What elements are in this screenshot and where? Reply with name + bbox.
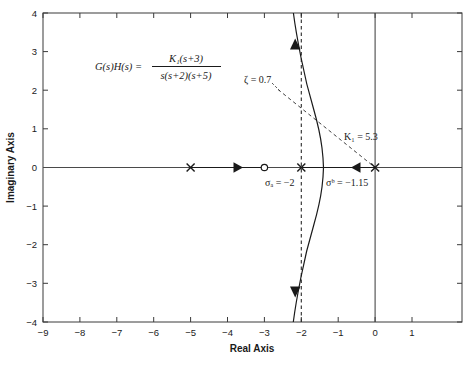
y-axis-title: Imaginary Axis bbox=[5, 132, 16, 203]
y-tick-label: −1 bbox=[26, 201, 37, 212]
x-tick-label: −8 bbox=[74, 327, 85, 338]
y-tick-label: −2 bbox=[26, 239, 37, 250]
y-tick-label: 0 bbox=[32, 162, 37, 173]
y-tick-label: 4 bbox=[32, 8, 37, 19]
root-locus-figure: −9 −8 −7 −6 −5 −4 −3 −2 −1 0 1 −4 −3 −2 … bbox=[0, 0, 474, 369]
equation-denominator: s(s+2)(s+5) bbox=[161, 70, 212, 82]
sigma-b-label: σᵇ = −1.15 bbox=[326, 177, 368, 188]
gain-label: K₁ = 5.3 bbox=[344, 131, 378, 142]
x-axis-title: Real Axis bbox=[230, 343, 275, 354]
x-tick-label: −4 bbox=[222, 327, 233, 338]
x-tick-label: −9 bbox=[38, 327, 49, 338]
y-tick-label: 3 bbox=[32, 46, 37, 57]
x-tick-label: −5 bbox=[185, 327, 196, 338]
x-tick-label: −3 bbox=[259, 327, 270, 338]
y-tick-label: −4 bbox=[26, 317, 37, 328]
equation-lhs: G(s)H(s) = bbox=[95, 61, 142, 73]
x-tick-label: −2 bbox=[296, 327, 307, 338]
y-tick-label: −3 bbox=[26, 278, 37, 289]
x-tick-label: 1 bbox=[409, 327, 414, 338]
sigma-a-label: σₐ = −2 bbox=[265, 177, 294, 188]
equation-numerator: K₁(s+3) bbox=[168, 53, 204, 65]
y-tick-label: 2 bbox=[32, 85, 37, 96]
x-tick-label: −6 bbox=[148, 327, 159, 338]
x-tick-label: 0 bbox=[372, 327, 377, 338]
zero-marker-minus3 bbox=[261, 164, 267, 170]
y-tick-labels: −4 −3 −2 −1 0 1 2 3 4 bbox=[26, 8, 37, 328]
x-tick-label: −7 bbox=[111, 327, 122, 338]
x-tick-labels: −9 −8 −7 −6 −5 −4 −3 −2 −1 0 1 bbox=[38, 327, 415, 338]
x-tick-label: −1 bbox=[333, 327, 344, 338]
y-tick-label: 1 bbox=[32, 123, 37, 134]
zeta-label: ζ = 0.7 bbox=[244, 74, 271, 86]
root-locus-plot: −9 −8 −7 −6 −5 −4 −3 −2 −1 0 1 −4 −3 −2 … bbox=[0, 0, 474, 369]
